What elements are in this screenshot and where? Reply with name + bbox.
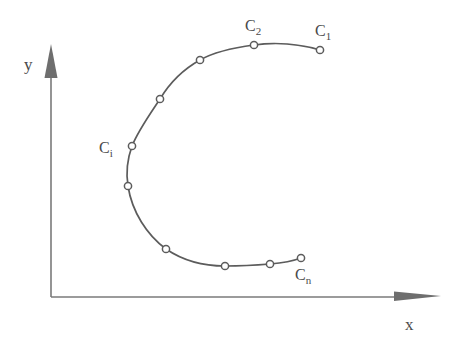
interpolating-curve — [127, 44, 320, 266]
curve-point-9 — [266, 260, 273, 267]
label-cn: Cn — [295, 266, 312, 286]
label-c1-end: C1 — [315, 22, 331, 42]
label-ci: Ci — [99, 139, 113, 159]
curve-point-3 — [196, 56, 203, 63]
curve-point-cn — [297, 254, 304, 261]
x-axis-arrowhead — [394, 292, 441, 302]
curve-figure-svg: y x C1 C2 Ci Cn — [0, 0, 449, 362]
curve-group — [127, 44, 320, 266]
label-c2: C2 — [245, 17, 261, 37]
y-axis-label: y — [24, 55, 33, 74]
y-axis-arrowhead — [45, 44, 58, 78]
curve-markers-group — [124, 41, 323, 269]
figure-canvas: y x C1 C2 Ci Cn — [0, 0, 449, 362]
curve-point-c2 — [250, 41, 257, 48]
curve-point-8 — [221, 262, 228, 269]
curve-point-7 — [162, 245, 169, 252]
curve-point-4 — [156, 95, 163, 102]
curve-point-c1 — [316, 46, 323, 53]
curve-point-ci — [128, 142, 135, 149]
point-labels-group: C1 C2 Ci Cn — [99, 17, 331, 286]
x-axis-group: x — [51, 292, 441, 335]
curve-point-6 — [124, 182, 131, 189]
x-axis-label: x — [405, 315, 414, 334]
y-axis-group: y — [24, 44, 58, 297]
